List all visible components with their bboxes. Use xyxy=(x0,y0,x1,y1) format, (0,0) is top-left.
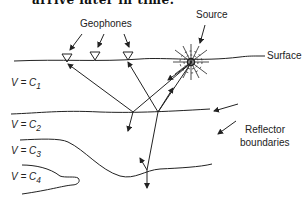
surface-label: Surface xyxy=(267,50,301,61)
geophone-icon xyxy=(123,52,133,60)
layer-label-c3: V = C3 xyxy=(11,145,41,159)
reflector-boundaries-label-1: Reflector xyxy=(245,124,285,135)
source-label: Source xyxy=(196,9,228,20)
geophone-icon xyxy=(90,52,100,60)
source-burst-icon xyxy=(173,44,209,80)
geophones-label: Geophones xyxy=(80,18,132,29)
layer-label-c4: V = C4 xyxy=(11,171,41,185)
reflector-boundaries-label-2: boundaries xyxy=(240,137,289,148)
layer-label-c1: V = C1 xyxy=(11,77,41,91)
reflector-boundary-1 xyxy=(11,109,210,114)
surface-line xyxy=(14,56,258,61)
seismic-diagram xyxy=(0,0,305,199)
layer-label-c2: V = C2 xyxy=(11,119,41,133)
reflector-boundary-2 xyxy=(20,139,212,177)
